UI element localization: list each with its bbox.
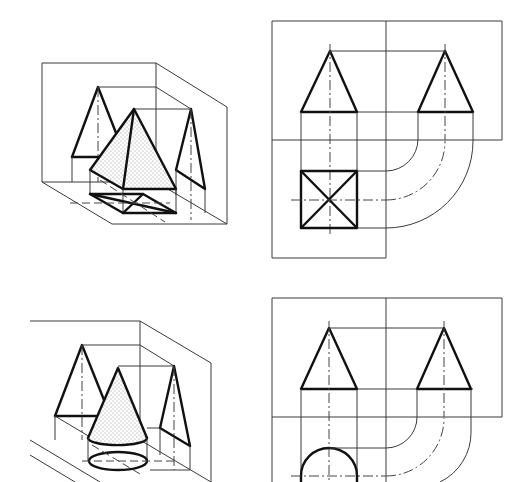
projection-drawing xyxy=(0,0,529,482)
top-view-square xyxy=(291,171,386,228)
top-view-circle xyxy=(291,448,386,482)
side-plane-triangle xyxy=(147,366,190,470)
transfer-arcs xyxy=(357,112,473,228)
cone-orthographic-panel xyxy=(272,298,502,482)
pyramid-orthographic-panel xyxy=(272,21,502,258)
pyramid-isometric-panel xyxy=(42,63,227,224)
side-view-triangle xyxy=(417,321,471,417)
transfer-arcs xyxy=(329,389,471,482)
side-view-triangle xyxy=(418,44,473,140)
front-view-triangle xyxy=(301,321,357,482)
cone-isometric-panel xyxy=(30,321,211,482)
